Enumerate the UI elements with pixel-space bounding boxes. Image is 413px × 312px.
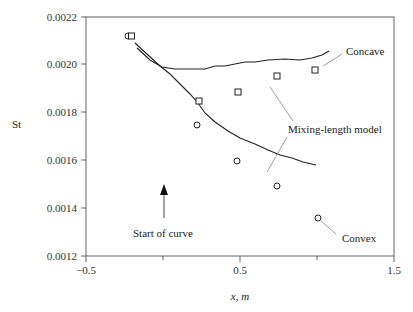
concave-data-points bbox=[129, 33, 319, 104]
chart: 0.0022 0.0020 0.0018 0.0016 0.0014 0.001… bbox=[0, 0, 413, 312]
x-tick-label: −0.5 bbox=[76, 264, 96, 276]
start-of-curve-label: Start of curve bbox=[133, 227, 193, 239]
convex-label: Convex bbox=[342, 232, 377, 244]
x-axis bbox=[86, 256, 394, 262]
y-axis-title: St bbox=[12, 118, 21, 130]
y-tick-label: 0.0020 bbox=[47, 58, 78, 70]
y-tick-label: 0.0014 bbox=[47, 202, 78, 214]
model-curve-convex bbox=[135, 43, 316, 165]
concave-label: Concave bbox=[346, 45, 385, 57]
model-label: Mixing-length model bbox=[288, 123, 382, 135]
leader-lines bbox=[267, 54, 342, 234]
model-curve-concave bbox=[137, 48, 329, 69]
y-axis bbox=[81, 17, 86, 256]
start-of-curve-arrow-icon bbox=[160, 184, 168, 218]
x-axis-title: x, m bbox=[230, 290, 249, 302]
y-tick-label: 0.0012 bbox=[47, 250, 77, 262]
y-tick-label: 0.0022 bbox=[47, 11, 77, 23]
x-tick-label: 1.5 bbox=[387, 264, 401, 276]
y-tick-label: 0.0016 bbox=[47, 154, 78, 166]
y-tick-label: 0.0018 bbox=[47, 106, 78, 118]
x-tick-label: 0.5 bbox=[233, 264, 247, 276]
